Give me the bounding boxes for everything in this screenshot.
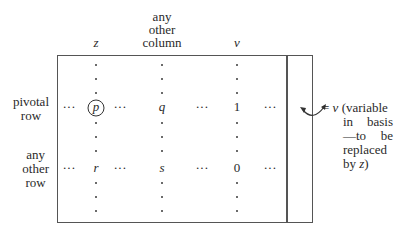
- ellipsis: ···: [196, 161, 209, 175]
- column-header-z: z: [93, 36, 98, 50]
- ellipsis: ···: [63, 100, 76, 114]
- annotation-word: in: [343, 115, 353, 129]
- row-label-pivotal-line2: row: [13, 109, 49, 123]
- ellipsis: ···: [114, 100, 127, 114]
- ellipsis: ···: [264, 161, 277, 175]
- annotation-line1: = v (variable: [322, 101, 393, 115]
- row-label-pivotal-line1: pivotal: [13, 95, 49, 109]
- annotation-word: —to: [343, 129, 366, 143]
- ellipsis: ···: [196, 100, 209, 114]
- cell-one: 1: [234, 100, 241, 114]
- pivot-element: p: [93, 100, 100, 114]
- annotation-line5: by z): [343, 157, 393, 171]
- ellipsis: ···: [114, 161, 127, 175]
- annotation-line3: —to be: [343, 129, 393, 143]
- row-label-other: any other row: [22, 148, 49, 190]
- basis-column-divider: [286, 55, 288, 223]
- cell-q: q: [159, 100, 166, 114]
- cell-s: s: [159, 161, 164, 175]
- annotation-word: basis: [367, 115, 393, 129]
- column-header-other-line3: column: [143, 36, 182, 50]
- basis-annotation: = v (variable in basis —to be replaced b…: [322, 101, 393, 171]
- annotation-word: ): [364, 156, 368, 171]
- annotation-line2: in basis: [343, 115, 393, 129]
- annotation-word: by: [343, 156, 359, 171]
- annotation-variable-text: (variable: [342, 100, 388, 115]
- column-header-v: v: [234, 36, 240, 50]
- annotation-var-v: v: [333, 100, 339, 115]
- cell-zero: 0: [234, 161, 241, 175]
- annotation-line4: replaced: [343, 143, 393, 157]
- row-label-other-line1: any: [22, 148, 49, 162]
- ellipsis: ···: [63, 161, 76, 175]
- row-label-other-line3: row: [22, 176, 49, 190]
- cell-r: r: [93, 161, 98, 175]
- annotation-word: be: [381, 129, 393, 143]
- row-label-pivotal: pivotal row: [13, 95, 49, 123]
- row-label-other-line2: other: [22, 162, 49, 176]
- ellipsis: ···: [264, 100, 277, 114]
- equals-sign: =: [322, 100, 329, 115]
